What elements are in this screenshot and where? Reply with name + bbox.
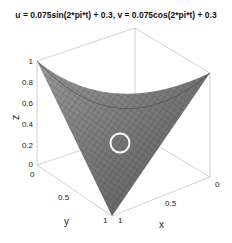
surface-plot: 1 0.8 0.6 0.4 0.2 0 z 0 0.5 1 y 1 0.5 0 … [0,0,232,243]
z-axis-ticks: 1 0.8 0.6 0.4 0.2 0 [22,57,34,169]
svg-text:0.5: 0.5 [165,199,177,208]
svg-text:0.4: 0.4 [22,120,34,129]
svg-text:0.5: 0.5 [58,193,70,202]
svg-text:0: 0 [30,170,35,179]
z-axis-label: z [10,115,21,120]
svg-text:0.6: 0.6 [22,99,34,108]
svg-text:0.2: 0.2 [22,141,34,150]
svg-text:1: 1 [118,216,123,225]
svg-text:0.8: 0.8 [22,78,34,87]
x-axis-ticks: 1 0.5 0 [118,180,220,225]
svg-text:0: 0 [29,160,34,169]
x-axis-label: x [159,219,164,230]
svg-text:1: 1 [29,57,34,66]
y-axis-label: y [64,216,69,227]
svg-text:1: 1 [103,216,108,225]
svg-text:0: 0 [215,180,220,189]
